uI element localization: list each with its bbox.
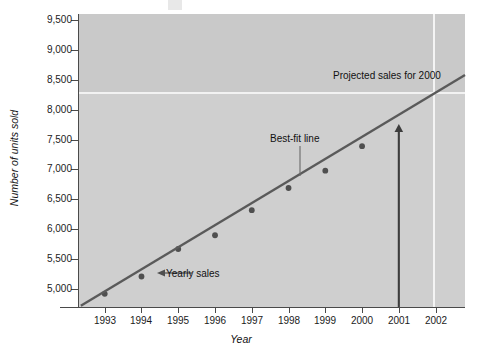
data-point-1997 [249,207,255,213]
data-point-1999 [322,168,328,174]
annotation-leader-yearly-sales-arrowhead [157,270,165,277]
annotation-best-fit-line: Best-fit line [270,133,319,144]
chart-figure: 5,0005,5006,0006,5007,0007,5008,0008,500… [0,0,482,351]
annotation-yearly-sales: Yearly sales [166,268,220,279]
data-point-1996 [212,232,218,238]
best-fit-line [81,75,465,306]
data-point-1998 [286,185,292,191]
chart-data-layer [0,0,482,351]
annotation-projected-sales: Projected sales for 2000 [333,70,441,81]
data-point-2000 [359,143,365,149]
data-point-1994 [139,274,145,280]
projection-arrow-head [395,124,404,132]
